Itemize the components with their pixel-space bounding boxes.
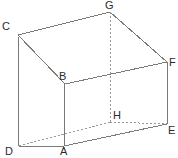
- solid-edge-group: [18, 12, 167, 146]
- figure-canvas: [0, 0, 178, 158]
- vertex-label-e: E: [168, 125, 175, 136]
- vertex-label-b: B: [59, 71, 66, 82]
- edge-f-b: [65, 62, 167, 84]
- edge-b-a: [64, 84, 65, 146]
- vertex-label-g: G: [105, 0, 114, 11]
- vertex-label-d: D: [5, 146, 13, 157]
- geometry-figure: ABCDEFGH: [0, 0, 178, 158]
- edge-h-e: [110, 122, 167, 124]
- vertex-label-h: H: [113, 110, 121, 121]
- edge-c-g: [18, 12, 110, 35]
- vertex-label-c: C: [2, 21, 10, 32]
- edge-b-c: [18, 35, 65, 84]
- edge-g-f: [110, 12, 167, 62]
- edge-c-d: [18, 35, 19, 146]
- edge-a-e: [64, 124, 167, 146]
- hidden-edge-group: [19, 12, 167, 146]
- vertex-label-f: F: [169, 57, 176, 68]
- vertex-label-a: A: [60, 146, 67, 157]
